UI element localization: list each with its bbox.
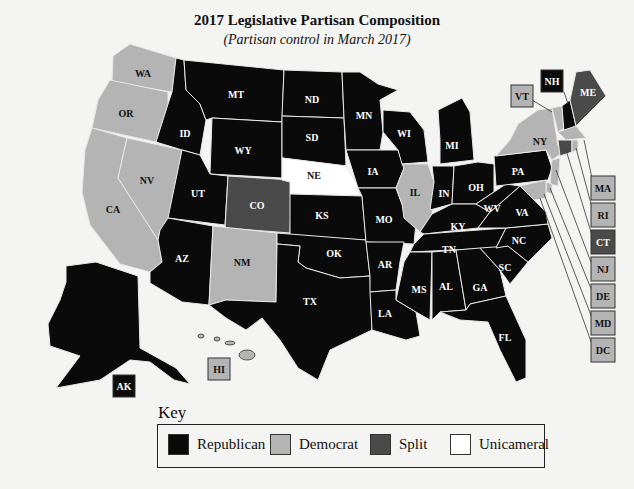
legend-label: Republican (197, 436, 265, 453)
label-SC: SC (499, 262, 512, 273)
svg-text:DE: DE (596, 291, 610, 302)
label-GA: GA (473, 282, 489, 293)
label-SD: SD (306, 132, 319, 143)
swatch-democrat (270, 434, 291, 455)
key-title: Key (158, 403, 186, 423)
label-OH: OH (468, 182, 484, 193)
label-MT: MT (228, 89, 244, 100)
callout-DC[interactable]: DC (591, 338, 615, 362)
label-FL: FL (499, 332, 512, 343)
label-CA: CA (106, 204, 121, 215)
svg-text:VT: VT (515, 91, 529, 102)
svg-text:RI: RI (597, 210, 608, 221)
svg-text:NH: NH (545, 76, 560, 87)
label-NC: NC (512, 235, 526, 246)
callout-CT[interactable]: CT (591, 230, 615, 254)
svg-text:MD: MD (595, 318, 612, 329)
label-ID: ID (179, 128, 190, 139)
label-AZ: AZ (175, 253, 189, 264)
svg-text:MA: MA (595, 183, 612, 194)
swatch-split (370, 434, 391, 455)
label-NV: NV (140, 175, 155, 186)
label-OR: OR (119, 108, 135, 119)
label-WV: WV (483, 203, 501, 214)
label-OK: OK (326, 248, 342, 259)
label-MN: MN (356, 110, 373, 121)
label-WI: WI (397, 128, 411, 139)
label-TX: TX (303, 296, 318, 307)
svg-text:CT: CT (596, 237, 610, 248)
legend-item-democrat: Democrat (270, 434, 358, 455)
label-PA: PA (512, 166, 525, 177)
label-ME: ME (580, 87, 596, 98)
label-WA: WA (135, 68, 152, 79)
label-LA: LA (378, 308, 393, 319)
label-NM: NM (234, 257, 251, 268)
label-IN: IN (438, 188, 450, 199)
callout-DE[interactable]: DE (591, 284, 615, 308)
callout-RI[interactable]: RI (591, 203, 615, 227)
label-IA: IA (367, 166, 379, 177)
legend-label: Split (399, 436, 427, 453)
legend-item-republican: Republican (168, 434, 265, 455)
label-KS: KS (315, 210, 329, 221)
label-VA: VA (515, 207, 529, 218)
label-NE: NE (307, 170, 321, 181)
label-KY: KY (451, 221, 467, 232)
label-TN: TN (442, 244, 457, 255)
label-MI: MI (445, 140, 458, 151)
callout-HI[interactable]: HI (208, 358, 230, 380)
label-WY: WY (234, 145, 252, 156)
label-AL: AL (439, 281, 453, 292)
callout-NH[interactable]: NH (541, 70, 563, 92)
legend-label: Unicameral (479, 436, 549, 453)
svg-text:DC: DC (596, 345, 610, 356)
callout-MD[interactable]: MD (591, 311, 615, 335)
callout-AK[interactable]: AK (113, 375, 135, 397)
legend-label: Democrat (299, 436, 358, 453)
svg-text:AK: AK (117, 381, 132, 392)
label-AR: AR (378, 259, 393, 270)
svg-text:NJ: NJ (597, 264, 609, 275)
callout-VT[interactable]: VT (511, 85, 533, 107)
label-MS: MS (412, 284, 427, 295)
label-CO: CO (250, 200, 265, 211)
swatch-republican (168, 434, 189, 455)
swatch-unicameral (450, 434, 471, 455)
label-NY: NY (533, 136, 548, 147)
callout-MA[interactable]: MA (591, 176, 615, 200)
label-IL: IL (410, 187, 421, 198)
callout-NJ[interactable]: NJ (591, 257, 615, 281)
label-MO: MO (375, 214, 392, 225)
legend-item-split: Split (370, 434, 427, 455)
legend: Republican Democrat Split Unicameral (157, 424, 545, 468)
svg-text:HI: HI (213, 364, 225, 375)
label-UT: UT (191, 188, 205, 199)
label-ND: ND (305, 94, 319, 105)
legend-item-unicameral: Unicameral (450, 434, 549, 455)
callout-boxes: VT NH MA RI CT NJ DE MD DC AK HI WA OR C… (0, 0, 634, 489)
